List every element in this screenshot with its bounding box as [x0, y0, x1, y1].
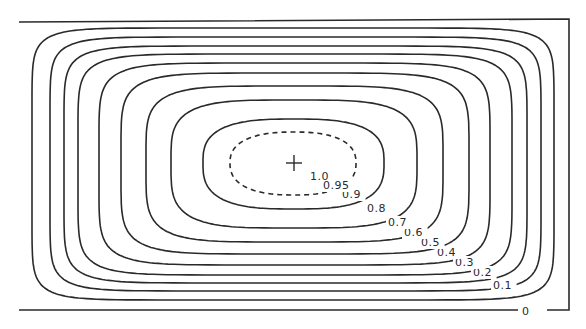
contour-label-0-7: 0.7 [388, 216, 407, 229]
contour-label-0: 0 [522, 305, 530, 318]
contour-plot: 00.10.20.30.40.50.60.70.80.90.951.0 [0, 0, 586, 329]
contour-line-0-2 [50, 37, 541, 291]
contour-label-1-0: 1.0 [310, 170, 329, 183]
contour-labels: 00.10.20.30.40.50.60.70.80.90.951.0 [310, 170, 530, 318]
contour-label-0-8: 0.8 [367, 202, 386, 215]
contour-label-0-1: 0.1 [493, 279, 512, 292]
center-plus-marker [286, 155, 302, 171]
